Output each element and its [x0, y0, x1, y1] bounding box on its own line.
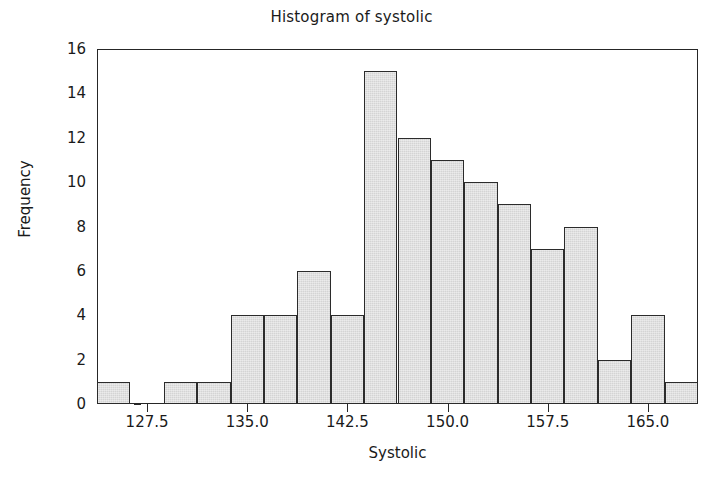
x-axis-tick-label: 157.5 [513, 414, 583, 431]
x-axis-tick-mark [548, 404, 549, 412]
x-axis-tick-mark [147, 404, 148, 412]
y-axis-tick-label: 2 [46, 352, 86, 367]
histogram-bar [564, 227, 597, 405]
histogram-bar [97, 382, 130, 404]
y-axis-tick-label: 12 [46, 130, 86, 145]
histogram-figure: Histogram of systolic Frequency 02468101… [0, 0, 703, 478]
y-axis-label: Frequency [16, 119, 34, 279]
y-axis-tick-mark [134, 404, 141, 405]
x-axis-tick-label: 165.0 [613, 414, 683, 431]
histogram-bar [197, 382, 230, 404]
y-axis-tick-labels: 0246810121416 [44, 0, 86, 478]
histogram-bar [464, 182, 497, 404]
histogram-bar [598, 360, 631, 404]
histogram-bar [297, 271, 330, 404]
plot-area [97, 49, 698, 404]
histogram-bar [631, 315, 664, 404]
y-axis-tick-label: 10 [46, 175, 86, 190]
x-axis-label: Systolic [97, 444, 698, 462]
histogram-bar [431, 160, 464, 404]
y-axis-tick-label: 14 [46, 86, 86, 101]
histogram-bar [164, 382, 197, 404]
histogram-bar [498, 204, 531, 404]
histogram-bar [264, 315, 297, 404]
x-axis-tick-mark [648, 404, 649, 412]
histogram-bar [331, 315, 364, 404]
x-axis-tick-mark [247, 404, 248, 412]
x-axis-tick-label: 142.5 [312, 414, 382, 431]
x-axis-tick-mark [448, 404, 449, 412]
y-axis-tick-label: 0 [46, 397, 86, 412]
histogram-bar [364, 71, 397, 404]
x-axis-tick-mark [347, 404, 348, 412]
chart-title: Histogram of systolic [0, 8, 703, 26]
y-axis-tick-label: 8 [46, 219, 86, 234]
y-axis-tick-label: 6 [46, 263, 86, 278]
y-axis-tick-label: 4 [46, 308, 86, 323]
x-axis-tick-label: 150.0 [413, 414, 483, 431]
histogram-bar [665, 382, 698, 404]
x-axis-tick-label: 135.0 [212, 414, 282, 431]
histogram-bar [398, 138, 431, 404]
y-axis-tick-label: 16 [46, 42, 86, 57]
histogram-bar [531, 249, 564, 404]
histogram-bar [231, 315, 264, 404]
x-axis-tick-label: 127.5 [112, 414, 182, 431]
